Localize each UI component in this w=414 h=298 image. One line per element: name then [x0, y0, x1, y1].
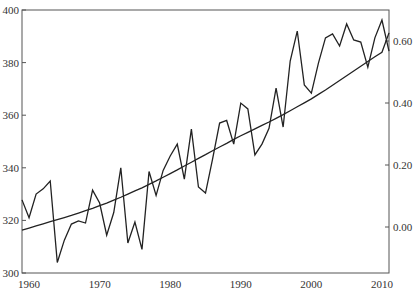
- left-tick-label: 320: [3, 214, 20, 226]
- left-tick-label: 360: [3, 109, 20, 121]
- right-tick-label: 0.60: [393, 35, 413, 47]
- trend-line: [22, 33, 389, 230]
- left-tick-label: 400: [3, 4, 20, 16]
- left-tick-label: 340: [3, 162, 20, 174]
- left-tick-label: 380: [3, 57, 20, 69]
- left-tick-label: 300: [3, 267, 20, 279]
- x-tick-label: 1990: [230, 278, 253, 290]
- x-tick-label: 1980: [159, 278, 182, 290]
- x-tick-label: 1960: [18, 278, 41, 290]
- right-tick-label: 0.20: [393, 159, 413, 171]
- fluctuating-line: [22, 20, 389, 262]
- x-tick-label: 2010: [371, 278, 394, 290]
- x-tick-label: 1970: [89, 278, 112, 290]
- x-axis-ticks: 196019701980199020002010: [18, 278, 393, 290]
- right-tick-label: 0.00: [393, 221, 413, 233]
- x-tick-label: 2000: [300, 278, 323, 290]
- right-tick-label: 0.40: [393, 97, 413, 109]
- plot-frame: [22, 10, 389, 273]
- chart: 300320340360380400 0.000.200.400.60 1960…: [0, 0, 414, 298]
